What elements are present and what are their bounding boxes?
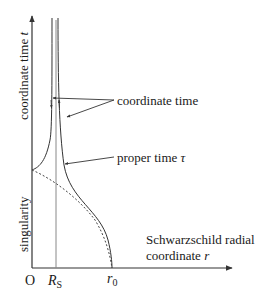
proper-time-pointer	[65, 157, 114, 164]
coordinate-time-pointer-1	[53, 98, 114, 100]
coordinate-time-pointer-2	[67, 100, 114, 117]
coordinate-time-curve-inner	[32, 18, 52, 170]
coordinate-time-curve-outer	[58, 18, 112, 268]
rs-label: RS	[48, 274, 62, 290]
r0-label: r0	[107, 272, 117, 288]
x-axis-label-line1: Schwarzschild radial	[146, 233, 255, 246]
proper-time-label: proper time τ	[117, 151, 185, 164]
y-axis-label: coordinate time t	[17, 32, 30, 120]
coordinate-time-label: coordinate time	[117, 94, 198, 107]
origin-label: O	[25, 274, 35, 288]
x-axis-label-line2: coordinate r	[146, 249, 209, 262]
singularity-label: singularity	[17, 196, 30, 252]
proper-time-curve	[32, 170, 112, 268]
